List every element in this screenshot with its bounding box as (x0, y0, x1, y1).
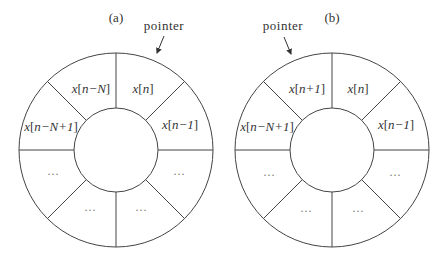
cell-b-top-left: x[n+1] (288, 81, 325, 96)
pointer-a-label: pointer (144, 18, 184, 33)
diagram-a-label: (a) (109, 10, 123, 25)
diagram-a: (a) pointer x[n−N] x[n] x[n−N+1] x[n−1] … (19, 10, 213, 247)
cell-b-upper-right: x[n−1] (377, 117, 414, 132)
inner-ring-a (74, 108, 158, 192)
cell-a-upper-right: x[n−1] (161, 117, 198, 132)
cell-a-bottom-left: ··· (84, 203, 96, 217)
cell-a-lower-left: ··· (47, 167, 59, 181)
pointer-b-arrow-icon (284, 37, 291, 54)
cell-b-bottom-left: ··· (300, 204, 312, 218)
cell-a-top-right: x[n] (132, 81, 154, 96)
cell-b-top-right: x[n] (347, 81, 369, 96)
cell-b-lower-right: ··· (389, 168, 401, 182)
cell-a-bottom-right: ··· (135, 203, 147, 217)
pointer-b-label: pointer (263, 18, 303, 33)
sector-dividers-b (235, 53, 429, 247)
diagram-b-label: (b) (324, 10, 339, 25)
cell-a-upper-left: x[n−N+1] (23, 119, 78, 134)
cell-a-top-left: x[n−N] (71, 81, 110, 96)
cell-a-lower-right: ··· (173, 167, 185, 181)
cell-b-bottom-right: ··· (352, 204, 364, 218)
sector-dividers-a (19, 53, 213, 247)
pointer-a-arrow-icon (157, 36, 164, 53)
circular-buffer-diagrams: (a) pointer x[n−N] x[n] x[n−N+1] x[n−1] … (0, 0, 444, 262)
inner-ring-b (290, 108, 374, 192)
cell-b-lower-left: ··· (263, 168, 275, 182)
cell-b-upper-left: x[n−N+1] (239, 119, 294, 134)
diagram-b: (b) pointer x[n+1] x[n] x[n−N+1] x[n−1] … (235, 10, 429, 247)
